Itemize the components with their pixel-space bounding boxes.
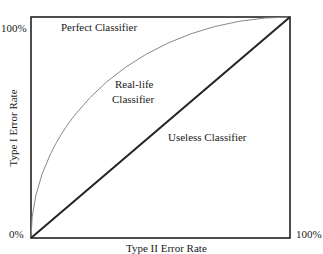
useless-line bbox=[31, 17, 290, 238]
perfect-classifier-label: Perfect Classifier bbox=[61, 21, 137, 33]
y-max-tick: 100% bbox=[1, 22, 27, 34]
origin-tick: 0% bbox=[9, 228, 24, 240]
useless-classifier-label: Useless Classifier bbox=[168, 131, 247, 143]
x-axis-label: Type II Error Rate bbox=[126, 242, 207, 254]
roc-chart bbox=[0, 0, 323, 254]
reallife-label-line1: Real-life bbox=[115, 78, 153, 90]
x-max-tick: 100% bbox=[296, 228, 322, 240]
y-axis-label: Type I Error Rate bbox=[7, 78, 19, 178]
reallife-label-line2: Classifier bbox=[112, 93, 154, 105]
